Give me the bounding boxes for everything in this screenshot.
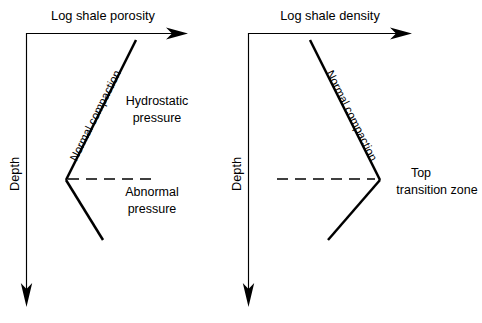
density-x-axis-title: Log shale density bbox=[280, 8, 380, 23]
hydrostatic-pressure-label-line1: Hydrostatic bbox=[126, 94, 189, 108]
abnormal-pressure-label-line2: pressure bbox=[128, 202, 177, 216]
porosity-panel: Log shale porosity Depth Normal compacti… bbox=[7, 8, 188, 307]
hydrostatic-pressure-label-line2: pressure bbox=[133, 111, 182, 125]
density-normal-compaction-label: Normal compaction bbox=[324, 68, 380, 163]
pressure-compaction-figure: Log shale porosity Depth Normal compacti… bbox=[0, 0, 482, 323]
porosity-normal-compaction-label: Normal compaction bbox=[67, 68, 123, 163]
density-panel: Log shale density Depth Normal compactio… bbox=[229, 8, 477, 307]
top-transition-zone-label-line2: transition zone bbox=[396, 183, 477, 197]
density-depth-axis-title: Depth bbox=[229, 157, 244, 191]
density-x-axis bbox=[248, 27, 412, 39]
porosity-x-axis bbox=[26, 27, 188, 39]
top-transition-zone-label-line1: Top bbox=[411, 166, 431, 180]
porosity-abnormal-pressure-line bbox=[66, 180, 103, 240]
density-depth-axis bbox=[243, 33, 254, 307]
abnormal-pressure-label-line1: Abnormal bbox=[125, 185, 179, 199]
figure-canvas: Log shale porosity Depth Normal compacti… bbox=[0, 0, 482, 323]
density-abnormal-pressure-line bbox=[328, 180, 380, 240]
porosity-depth-axis bbox=[21, 33, 32, 307]
porosity-x-axis-title: Log shale porosity bbox=[51, 8, 155, 23]
porosity-depth-axis-title: Depth bbox=[7, 157, 22, 191]
